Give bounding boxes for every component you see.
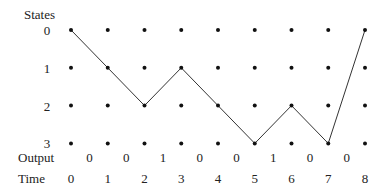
- trellis-node: [143, 28, 147, 32]
- trellis-node: [216, 141, 220, 145]
- time-value: 7: [325, 171, 332, 186]
- output-value: 1: [270, 150, 277, 165]
- time-values: 012345678: [68, 171, 369, 186]
- trellis-node: [106, 28, 110, 32]
- output-value: 0: [233, 150, 240, 165]
- trellis-node: [216, 104, 220, 108]
- trellis-node: [106, 66, 110, 70]
- states-axis-label: States: [24, 7, 55, 22]
- trellis-node: [179, 104, 183, 108]
- trellis-node: [290, 104, 294, 108]
- trellis-node: [69, 66, 73, 70]
- trellis-node: [179, 66, 183, 70]
- trellis-node: [216, 28, 220, 32]
- output-row-label: Output: [18, 150, 55, 165]
- trellis-node: [290, 66, 294, 70]
- time-value: 2: [141, 171, 148, 186]
- output-value: 0: [343, 150, 350, 165]
- output-value: 1: [160, 150, 167, 165]
- state-label: 0: [44, 23, 51, 38]
- trellis-node: [106, 104, 110, 108]
- trellis-node: [106, 141, 110, 145]
- trellis-node: [326, 66, 330, 70]
- trellis-node: [290, 28, 294, 32]
- output-value: 0: [86, 150, 93, 165]
- trellis-node: [143, 141, 147, 145]
- trellis-diagram: States 0123 Output 00100100 Time 0123456…: [0, 0, 390, 193]
- time-value: 5: [252, 171, 259, 186]
- trellis-node: [253, 104, 257, 108]
- trellis-node: [69, 28, 73, 32]
- trellis-node: [253, 141, 257, 145]
- trellis-node: [326, 104, 330, 108]
- trellis-node: [363, 141, 367, 145]
- trellis-node: [179, 28, 183, 32]
- trellis-node: [363, 66, 367, 70]
- output-value: 0: [196, 150, 203, 165]
- trellis-node: [290, 141, 294, 145]
- time-value: 0: [68, 171, 75, 186]
- trellis-node: [253, 66, 257, 70]
- trellis-node: [363, 104, 367, 108]
- trellis-node: [326, 28, 330, 32]
- time-value: 8: [362, 171, 369, 186]
- output-values: 00100100: [86, 150, 350, 165]
- trellis-node: [253, 28, 257, 32]
- state-label: 1: [44, 61, 51, 76]
- output-value: 0: [123, 150, 130, 165]
- trellis-node: [179, 141, 183, 145]
- time-value: 6: [288, 171, 295, 186]
- trellis-node: [326, 141, 330, 145]
- state-labels: 0123: [44, 23, 51, 151]
- time-value: 3: [178, 171, 185, 186]
- trellis-nodes: [69, 28, 367, 145]
- time-value: 1: [105, 171, 112, 186]
- output-value: 0: [307, 150, 314, 165]
- trellis-node: [69, 104, 73, 108]
- time-value: 4: [215, 171, 222, 186]
- state-path: [71, 30, 365, 143]
- trellis-node: [216, 66, 220, 70]
- trellis-node: [143, 104, 147, 108]
- trellis-node: [143, 66, 147, 70]
- trellis-node: [363, 28, 367, 32]
- time-row-label: Time: [18, 171, 45, 186]
- trellis-node: [69, 141, 73, 145]
- state-label: 2: [44, 99, 51, 114]
- path-polyline: [71, 30, 365, 143]
